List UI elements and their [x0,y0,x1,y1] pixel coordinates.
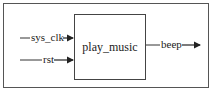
output-label-beep: beep [161,39,182,50]
module-block: play_music [74,14,146,80]
input-label-rst: rst [43,54,54,65]
input-label-sys-clk: sys_clk [31,32,64,43]
module-name: play_music [82,40,137,55]
